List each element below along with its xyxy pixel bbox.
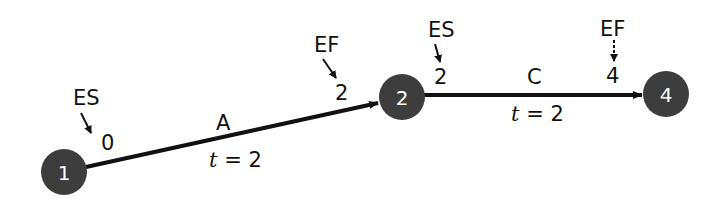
activity-a-ef-pointer (323, 59, 336, 78)
activity-a-ef-tag: EF (314, 33, 339, 57)
node-2-label: 2 (396, 86, 409, 110)
activity-c-ef-value: 4 (606, 64, 619, 88)
node-4: 4 (643, 71, 689, 117)
node-1: 1 (41, 149, 87, 195)
activity-a-es-value: 0 (101, 131, 114, 155)
node-2: 2 (379, 74, 425, 120)
activity-c-es-pointer (435, 44, 440, 62)
activity-a-duration: t = 2 (209, 148, 262, 172)
activity-a-name: A (216, 111, 231, 135)
activity-c-es-tag: ES (428, 18, 455, 42)
activity-c-ef-tag: EF (600, 17, 625, 41)
activity-c-duration: t = 2 (511, 102, 564, 126)
activity-network-diagram: A t = 2 ES 0 EF 2 C t = 2 ES 2 EF 4 1 2 (0, 0, 721, 203)
activity-c: C t = 2 ES 2 EF 4 (424, 17, 642, 126)
activity-a-es-pointer (81, 113, 91, 133)
node-1-label: 1 (58, 161, 71, 185)
activity-a: A t = 2 ES 0 EF 2 (73, 33, 378, 172)
activity-a-ef-value: 2 (335, 81, 348, 105)
node-4-label: 4 (660, 83, 673, 107)
activity-a-es-tag: ES (73, 86, 100, 110)
activity-c-name: C (527, 65, 542, 89)
activity-c-es-value: 2 (434, 65, 447, 89)
